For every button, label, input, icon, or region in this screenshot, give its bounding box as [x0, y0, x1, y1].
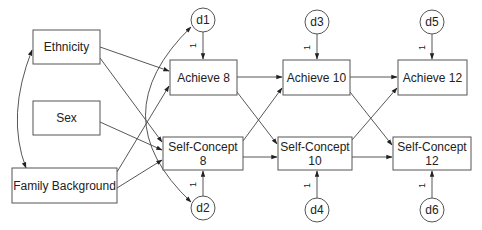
path-family-background-achieve8	[117, 86, 169, 172]
disturbance-d1: d1	[191, 8, 215, 32]
disturbance-label: d4	[310, 203, 324, 217]
disturbance-label: d6	[425, 203, 439, 217]
node-label: Achieve 12	[403, 71, 463, 85]
path-ethnicity-selfconcept8	[100, 58, 162, 142]
loading-d5: 1	[417, 45, 427, 50]
disturbance-d5: d5	[420, 10, 444, 34]
disturbance-label: d3	[310, 15, 324, 29]
path-selfconcept10-achieve12	[352, 88, 397, 140]
path-sex-selfconcept8	[100, 122, 162, 150]
disturbance-d3: d3	[305, 10, 329, 34]
node-family-background: Family Background	[12, 168, 117, 203]
disturbance-d6: d6	[420, 198, 444, 222]
node-selfconcept8: Self-Concept 8	[163, 137, 243, 170]
node-label: Ethnicity	[44, 40, 89, 54]
node-ethnicity: Ethnicity	[33, 30, 100, 64]
path-achieve8-selfconcept10	[237, 92, 277, 144]
node-label: Achieve 8	[177, 71, 230, 85]
node-label: Family Background	[13, 179, 116, 193]
path-family-background-selfconcept8	[117, 160, 162, 188]
node-label: Achieve 10	[287, 71, 347, 85]
node-selfconcept12: Self-Concept 12	[393, 137, 471, 170]
node-label-line2: 10	[308, 154, 322, 168]
node-label-line1: Self-Concept	[280, 140, 350, 154]
loading-d3: 1	[302, 45, 312, 50]
node-achieve8: Achieve 8	[170, 60, 237, 95]
node-label-line1: Self-Concept	[397, 140, 467, 154]
path-ethnicity-achieve8	[100, 47, 169, 71]
node-label-line1: Self-Concept	[168, 140, 238, 154]
node-label: Sex	[56, 111, 77, 125]
disturbance-d2: d2	[191, 196, 215, 220]
disturbance-label: d1	[196, 13, 210, 27]
node-sex: Sex	[33, 101, 100, 135]
node-selfconcept10: Self-Concept 10	[278, 137, 352, 170]
path-selfconcept8-achieve10	[243, 88, 282, 141]
node-achieve12: Achieve 12	[398, 60, 467, 95]
node-achieve10: Achieve 10	[283, 60, 350, 95]
covariance-ethnicity-family-background	[17, 50, 32, 168]
node-label-line2: 8	[200, 154, 207, 168]
disturbance-label: d2	[196, 201, 210, 215]
loading-d1: 1	[188, 43, 198, 48]
path-diagram: 1 1 1 1 1 1 Ethnicity Sex Family Backgro…	[0, 0, 482, 230]
disturbance-d4: d4	[305, 198, 329, 222]
node-label-line2: 12	[425, 154, 439, 168]
covariance-d1-d2	[146, 27, 192, 202]
disturbance-label: d5	[425, 15, 439, 29]
loading-d4: 1	[302, 183, 312, 188]
loading-d2: 1	[188, 182, 198, 187]
loading-d6: 1	[417, 183, 427, 188]
